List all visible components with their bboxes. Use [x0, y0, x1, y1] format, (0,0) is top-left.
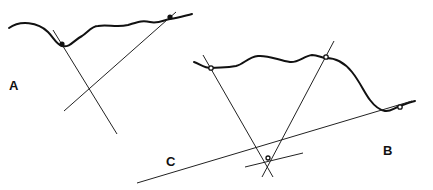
- label-c: C: [166, 154, 176, 169]
- diagram-canvas: A B C: [0, 0, 433, 190]
- point-b1: [209, 66, 213, 70]
- label-b: B: [383, 143, 392, 158]
- point-station: [266, 156, 270, 160]
- panel-b: B: [137, 41, 415, 183]
- label-a: A: [9, 78, 19, 93]
- point-b3: [398, 105, 402, 109]
- point-a2: [167, 14, 172, 19]
- sight-line-b3: [137, 101, 412, 183]
- point-a1: [59, 41, 64, 46]
- panel-a: A: [9, 12, 192, 134]
- point-b2: [324, 55, 328, 59]
- sight-line-b1: [203, 55, 273, 177]
- profile-a: [9, 14, 192, 46]
- profile-b: [194, 55, 415, 111]
- diagram: A B C: [0, 0, 433, 190]
